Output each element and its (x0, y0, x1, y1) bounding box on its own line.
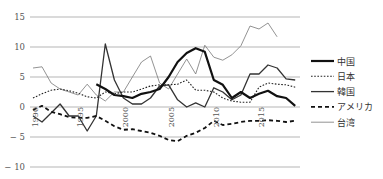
x-tick-label: 2000 (121, 107, 130, 127)
legend-label: 韓国 (337, 87, 355, 97)
legend: 中国日本韓国アメリカ台湾 (311, 56, 373, 128)
y-tick-label: 15 (14, 12, 25, 22)
legend-label: 台湾 (337, 117, 355, 128)
legend-label: 中国 (337, 56, 355, 67)
y-tick-label: 10 (14, 42, 25, 52)
legend-label: アメリカ (337, 102, 373, 112)
y-tick-label: 5 (20, 72, 25, 82)
x-tick-label: 1995 (76, 107, 85, 127)
y-axis-ticks: 151050− 5− 10 (4, 12, 25, 172)
line-chart: 151050− 5− 10 199019952000200520102015 中… (0, 0, 383, 179)
x-tick-label: 1990 (31, 107, 40, 127)
series-lines (33, 23, 295, 141)
x-tick-label: 2015 (257, 107, 266, 127)
y-tick-label: − 10 (4, 162, 25, 172)
y-tick-label: 0 (20, 102, 25, 112)
x-tick-label: 2005 (167, 107, 176, 127)
x-tick-label: 2010 (212, 107, 221, 127)
y-tick-label: − 5 (10, 132, 25, 142)
series-line-3 (33, 106, 295, 141)
gridlines (30, 17, 300, 167)
legend-label: 日本 (337, 71, 355, 82)
series-line-4 (33, 23, 277, 101)
